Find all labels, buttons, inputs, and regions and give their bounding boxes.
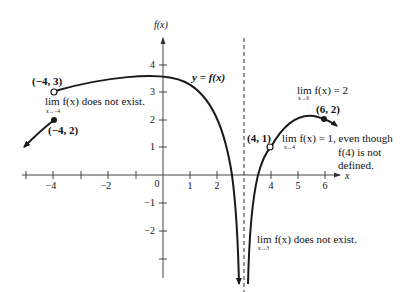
y-tick-label: 4 <box>150 59 155 70</box>
limit-annotation-4-line3: defined. <box>338 159 374 171</box>
x-tick-label: 1 <box>188 180 193 191</box>
point-label-4-1: (4, 1) <box>247 132 271 145</box>
middle-branch-curve <box>55 76 239 284</box>
y-tick-label: −1 <box>144 197 155 208</box>
y-tick-label: 1 <box>150 141 155 152</box>
x-tick-label: −4 <box>46 180 57 191</box>
filled-point-m4-2 <box>51 117 57 123</box>
x-axis: −4 −2 0 1 2 4 5 6 x <box>22 170 350 191</box>
limit-annotation-4-line2: f(4) is not <box>338 146 381 159</box>
y-tick-label: 3 <box>150 86 155 97</box>
limit-subscript-3: x→3 <box>258 245 269 251</box>
limit-annotation-3: lim f(x) does not exist. <box>257 233 357 246</box>
x-tick-label: 4 <box>269 180 274 191</box>
y-axis-label: f(x) <box>154 19 169 31</box>
limit-annotation-m4: lim f(x) does not exist. <box>45 95 145 108</box>
x-tick-label: −2 <box>101 180 112 191</box>
filled-point-6-2 <box>321 116 327 122</box>
x-tick-label: 2 <box>215 180 220 191</box>
limit-annotation-4-line1: lim f(x) = 1, even though <box>282 132 393 145</box>
limit-subscript-m4: x→−4 <box>46 108 60 114</box>
point-label-m4-3: (−4, 3) <box>32 75 62 88</box>
x-axis-label: x <box>344 170 350 181</box>
open-point-4-1 <box>267 144 273 150</box>
x-tick-label: 6 <box>323 180 328 191</box>
y-axis: 4 3 2 1 −1 −2 f(x) <box>144 19 168 278</box>
limit-subscript-6: x→6 <box>298 95 309 101</box>
x-tick-label: 5 <box>296 180 301 191</box>
y-tick-label: −2 <box>144 225 155 236</box>
limit-graph: −4 −2 0 1 2 4 5 6 x 4 3 2 1 −1 −2 f(x) <box>0 0 413 292</box>
x-tick-label: 0 <box>155 178 160 189</box>
point-label-m4-2: (−4, 2) <box>48 124 78 137</box>
point-label-6-2: (6, 2) <box>316 103 340 116</box>
limit-subscript-4: x→4 <box>284 144 295 150</box>
y-tick-label: 2 <box>150 114 155 125</box>
curve-label: y = f(x) <box>190 71 225 84</box>
